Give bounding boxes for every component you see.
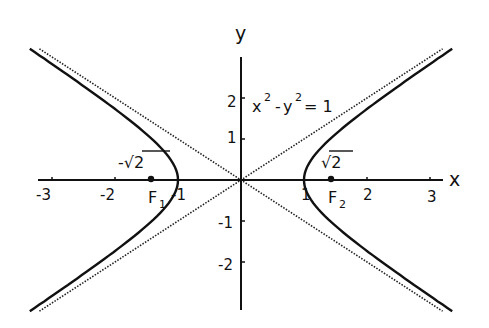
eq-y: y <box>283 97 292 116</box>
x-tick-label: 2 <box>363 186 373 204</box>
focus-1-label: F 1 <box>148 188 166 211</box>
x-tick-label: -2 <box>100 186 115 204</box>
focus-1-point <box>148 176 154 182</box>
focus-2-value-text: √2 <box>321 153 341 172</box>
focus-1-subscript: 1 <box>159 198 166 211</box>
focus-1-value: -√2 <box>118 151 170 172</box>
hyperbola-diagram: y x -3 -2 -1 1 2 3 2 1 -1 -2 x 2 - y 2 =… <box>0 0 489 328</box>
y-tick-label: 2 <box>227 93 237 111</box>
y-tick-label: -1 <box>218 214 233 232</box>
plot-svg: y x -3 -2 -1 1 2 3 2 1 -1 -2 x 2 - y 2 =… <box>0 0 489 328</box>
y-tick-label: -2 <box>218 256 233 274</box>
x-tick-label: 1 <box>301 186 311 204</box>
focus-1-name: F <box>148 188 157 207</box>
x-tick-label: -1 <box>171 186 186 204</box>
y-tick-label: 1 <box>227 129 237 147</box>
eq-equals: = 1 <box>304 97 333 116</box>
eq-x: x <box>252 97 261 116</box>
focus-2-point <box>328 176 334 182</box>
eq-x-exp: 2 <box>264 91 271 104</box>
x-tick-label: -3 <box>36 186 51 204</box>
x-tick-label: 3 <box>427 188 437 206</box>
focus-2-value: √2 <box>321 151 353 172</box>
focus-2-subscript: 2 <box>339 198 346 211</box>
x-axis-label: x <box>449 168 460 190</box>
focus-1-value-text: -√2 <box>118 153 144 172</box>
focus-2-label: F 2 <box>328 188 346 211</box>
eq-y-exp: 2 <box>295 91 302 104</box>
equation-label: x 2 - y 2 = 1 <box>252 91 333 116</box>
eq-minus: - <box>275 97 281 116</box>
y-axis-label: y <box>235 22 246 44</box>
focus-2-name: F <box>328 188 337 207</box>
